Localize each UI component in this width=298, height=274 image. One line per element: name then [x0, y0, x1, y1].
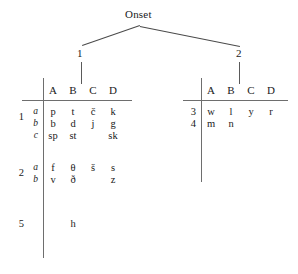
right-table-cell-4-a: m [203, 118, 219, 129]
right-table-cell-3-b: l [223, 106, 239, 117]
right-table-cell-4-b: n [223, 118, 239, 129]
right-table-cell-3-c: y [243, 106, 259, 117]
right-table-group-number-3: 3 [186, 106, 196, 117]
right-table-col-header-c: C [243, 85, 259, 96]
right-table-vertical-rule [201, 78, 202, 182]
right-table-cell-3-d: r [263, 106, 279, 117]
right-table-col-header-d: D [263, 85, 279, 96]
right-table-cell-3-a: w [203, 106, 219, 117]
right-table-header-rule [183, 100, 288, 101]
right-table-group-number-4: 4 [186, 118, 196, 129]
right-table-col-header-b: B [223, 85, 239, 96]
diagram-canvas: Onset 1 2 A B C D 1 a p t č k b b d j g … [0, 0, 298, 274]
right-table: A B C D 3 w l y r 4 m n [0, 0, 298, 274]
right-table-col-header-a: A [203, 85, 219, 96]
